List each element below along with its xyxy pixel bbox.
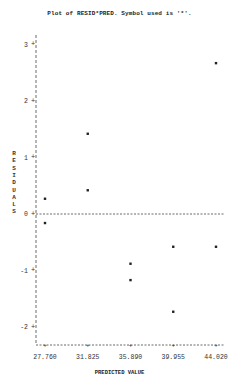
- data-point: [172, 246, 174, 248]
- y-tick-mark: +: [31, 153, 35, 161]
- residual-plot: +3+2+1+0+-1+-2+27.760+31.825+35.890+39.9…: [0, 0, 239, 383]
- y-tick-label: 1: [24, 155, 28, 162]
- x-axis-label: PREDICTED VALUE: [0, 369, 239, 376]
- x-tick-mark: +: [171, 342, 175, 349]
- x-tick-mark: +: [129, 342, 133, 349]
- y-axis-label-letter: D: [12, 179, 16, 186]
- x-tick-label: 39.955: [162, 354, 186, 361]
- y-axis-label-letter: U: [12, 187, 16, 194]
- data-point: [87, 189, 89, 191]
- y-tick-label: -2: [20, 324, 28, 331]
- data-point: [215, 246, 217, 248]
- y-tick-label: -1: [20, 268, 28, 275]
- y-axis-label-letter: E: [12, 157, 16, 164]
- data-point: [172, 311, 174, 313]
- data-point: [129, 263, 131, 265]
- y-axis-label-letter: R: [12, 150, 16, 157]
- data-point: [215, 62, 217, 64]
- y-axis-label-letter: I: [12, 172, 16, 179]
- x-tick-label: 44.020: [204, 354, 228, 361]
- x-tick-label: 31.825: [76, 354, 100, 361]
- y-tick-mark: +: [31, 323, 35, 331]
- x-tick-mark: +: [43, 342, 47, 349]
- x-tick-mark: +: [86, 342, 90, 349]
- data-point: [44, 198, 46, 200]
- x-tick-label: 35.890: [119, 354, 143, 361]
- x-tick-label: 27.760: [33, 354, 57, 361]
- y-tick-label: 3: [24, 42, 28, 49]
- y-tick-mark: +: [31, 210, 35, 218]
- data-point: [44, 222, 46, 224]
- y-axis-label-letter: S: [12, 165, 16, 172]
- y-tick-label: 2: [24, 98, 28, 105]
- y-axis-label-letter: L: [12, 201, 16, 208]
- data-point: [87, 133, 89, 135]
- y-axis-label-letter: S: [12, 208, 16, 215]
- y-tick-mark: +: [31, 266, 35, 274]
- y-tick-mark: +: [31, 97, 35, 105]
- y-tick-mark: +: [31, 40, 35, 48]
- data-point: [129, 279, 131, 281]
- x-tick-mark: +: [214, 342, 218, 349]
- y-axis-label-letter: A: [12, 194, 16, 201]
- y-tick-label: 0: [24, 211, 28, 218]
